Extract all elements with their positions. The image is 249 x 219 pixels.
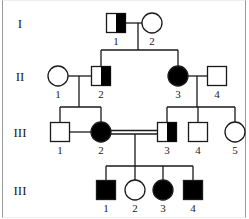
female-unaffected-symbol: [125, 180, 145, 200]
individual-number: 1: [103, 202, 109, 214]
individual-number: 2: [98, 88, 104, 100]
half-shaded-fill: [116, 14, 126, 33]
generation-label: II: [16, 69, 25, 84]
female-unaffected-symbol: [225, 122, 245, 142]
male-carrier-symbol: [107, 14, 126, 33]
individual-number: 2: [98, 144, 104, 156]
half-shaded-fill: [101, 67, 111, 86]
generation-label: III: [14, 183, 27, 198]
male-affected-symbol: [184, 181, 203, 200]
individual-number: 1: [55, 88, 61, 100]
individual-number: 4: [214, 88, 220, 100]
male-unaffected-symbol: [208, 67, 227, 86]
individual-number: 1: [57, 144, 63, 156]
individual-number: 1: [113, 35, 119, 47]
individual-number: 3: [164, 144, 170, 156]
female-affected-symbol: [153, 180, 173, 200]
half-shaded-fill: [167, 123, 177, 142]
individual-number: 2: [132, 202, 138, 214]
female-unaffected-symbol: [48, 66, 68, 86]
female-affected-symbol: [168, 66, 188, 86]
female-affected-symbol: [91, 122, 111, 142]
generation-label: I: [18, 16, 22, 31]
individual-number: 2: [149, 35, 155, 47]
male-unaffected-symbol: [189, 123, 208, 142]
relationship-lines: [60, 23, 235, 181]
individual-number: 5: [232, 144, 238, 156]
individual-number: 4: [190, 202, 196, 214]
male-carrier-symbol: [158, 123, 177, 142]
generation-label: III: [14, 125, 27, 140]
individual-number: 3: [160, 202, 166, 214]
individual-number: 4: [195, 144, 201, 156]
male-unaffected-symbol: [51, 123, 70, 142]
male-affected-symbol: [97, 181, 116, 200]
female-unaffected-symbol: [142, 13, 162, 33]
labels: I12II1234III12345III1234: [14, 16, 239, 214]
individual-number: 3: [175, 88, 181, 100]
male-carrier-symbol: [92, 67, 111, 86]
pedigree-chart: I12II1234III12345III1234: [0, 0, 249, 219]
